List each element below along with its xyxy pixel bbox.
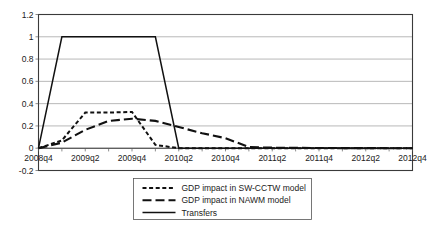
legend-label-2: GDP impact in NAWM model bbox=[182, 195, 291, 205]
chart-legend: GDP impact in SW-CCTW modelGDP impact in… bbox=[134, 179, 312, 220]
y-tick-label: 1.2 bbox=[22, 10, 34, 20]
legend-label-1: GDP impact in SW-CCTW model bbox=[182, 183, 306, 193]
y-tick-label: 0.4 bbox=[22, 99, 34, 109]
line-chart: -0.200.20.40.60.811.2 2008q42009q22009q4… bbox=[0, 0, 430, 225]
x-tick-label: 2011q4 bbox=[305, 153, 333, 163]
x-tick-label: 2010q2 bbox=[165, 153, 194, 163]
x-tick-label: 2012q4 bbox=[398, 153, 427, 163]
chart-container: -0.200.20.40.60.811.2 2008q42009q22009q4… bbox=[0, 0, 430, 225]
x-tick-label: 2008q4 bbox=[24, 153, 53, 163]
x-tick-label: 2010q4 bbox=[211, 153, 240, 163]
x-tick-label: 2009q2 bbox=[71, 153, 100, 163]
y-tick-label: 1 bbox=[29, 32, 34, 42]
y-tick-label: 0.8 bbox=[22, 54, 34, 64]
legend-label-3: Transfers bbox=[182, 208, 218, 218]
x-tick-label: 2012q2 bbox=[352, 153, 381, 163]
x-tick-label: 2009q4 bbox=[118, 153, 147, 163]
x-axis-tick-labels: 2008q42009q22009q42010q22010q42011q22011… bbox=[24, 153, 427, 163]
y-tick-label: 0.6 bbox=[22, 76, 34, 86]
y-tick-label: 0.2 bbox=[22, 121, 34, 131]
y-tick-label: -0.2 bbox=[19, 166, 34, 176]
x-tick-label: 2011q2 bbox=[258, 153, 286, 163]
